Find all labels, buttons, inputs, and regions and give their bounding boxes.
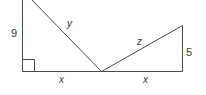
left-leg-label: 9 (11, 27, 17, 39)
left-base-label: x (58, 74, 65, 85)
left-hypotenuse-label: y (66, 18, 73, 29)
right-base-label: x (142, 74, 149, 85)
right-leg-label: 5 (186, 46, 192, 58)
left-hypotenuse (32, 0, 102, 72)
geometry-diagram: 9 y z 5 x x (0, 0, 206, 95)
right-hypotenuse (102, 26, 183, 72)
right-hypotenuse-label: z (136, 36, 142, 47)
right-angle-marker (23, 60, 35, 72)
